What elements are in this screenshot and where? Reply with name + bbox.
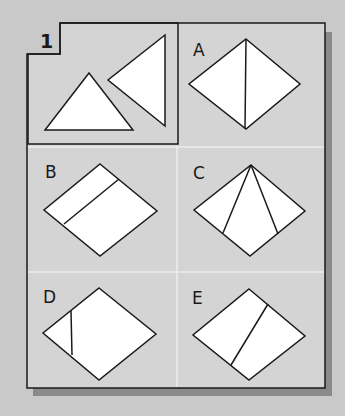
option-c-label: C (193, 165, 205, 182)
option-d-split-line (71, 311, 72, 355)
option-a-split-line (245, 39, 246, 129)
card-shadow-right (325, 32, 332, 396)
option-d-label: D (43, 289, 56, 306)
option-a-label: A (193, 42, 205, 59)
puzzle-card: 1 A B C D E (0, 0, 345, 416)
option-b-label: B (45, 164, 57, 181)
question-label: 1 (40, 32, 53, 51)
puzzle-canvas (0, 0, 345, 416)
option-e-label: E (192, 290, 203, 307)
card-shadow-bottom (33, 388, 330, 396)
